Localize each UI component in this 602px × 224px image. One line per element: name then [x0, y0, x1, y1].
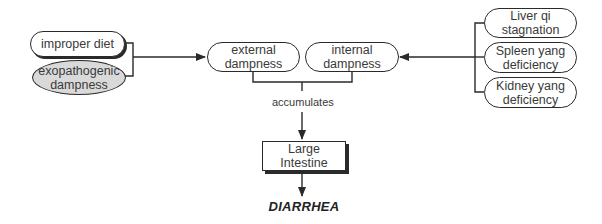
- node-improper-diet: improper diet: [30, 31, 125, 57]
- node-label: improper diet: [41, 37, 114, 51]
- node-label: internal dampness: [320, 43, 384, 71]
- node-internal-dampness: internal dampness: [305, 42, 399, 72]
- node-liver-qi-stagnation: Liver qi stagnation: [484, 8, 577, 38]
- node-label: Spleen yang deficiency: [493, 44, 568, 72]
- center-bracket: [253, 72, 352, 82]
- node-spleen-yang-deficiency: Spleen yang deficiency: [484, 42, 577, 73]
- node-label: external dampness: [222, 43, 285, 71]
- node-kidney-yang-deficiency: Kidney yang deficiency: [484, 77, 577, 108]
- node-label: Large Intestine: [263, 142, 345, 170]
- node-label: exopathogenic dampness: [35, 64, 123, 92]
- outcome-diarrhea: DIARRHEA: [262, 199, 346, 214]
- node-label: Liver qi stagnation: [501, 9, 560, 37]
- edge-label-accumulates: accumulates: [272, 96, 332, 108]
- node-external-dampness: external dampness: [207, 42, 300, 72]
- left-bracket: [125, 43, 133, 76]
- node-large-intestine: Large Intestine: [262, 141, 346, 171]
- node-label: Kidney yang deficiency: [493, 79, 568, 107]
- node-exopathogenic-dampness: exopathogenic dampness: [32, 60, 126, 95]
